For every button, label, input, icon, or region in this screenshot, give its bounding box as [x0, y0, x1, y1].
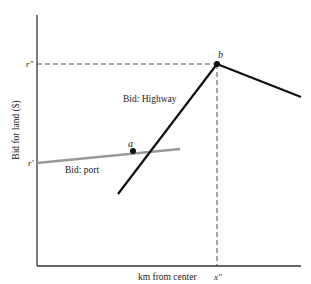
point-b-label: b [218, 49, 223, 60]
x-double-prime-tick-label: x″ [213, 272, 222, 282]
point-a-label: a [128, 138, 133, 149]
r-prime-tick-label: r′ [28, 158, 35, 168]
y-axis-label: Bid for land ($) [11, 100, 22, 159]
highway-bid-decline-line [217, 64, 301, 97]
bid-rent-diagram: a b Bid: Highway Bid: port r″ r′ x″ km f… [0, 0, 311, 284]
r-double-prime-tick-label: r″ [26, 59, 34, 69]
port-curve-label: Bid: port [65, 165, 99, 175]
highway-curve-label: Bid: Highway [123, 94, 177, 104]
x-axis-label: km from center [138, 272, 197, 282]
point-b [214, 61, 220, 67]
highway-bid-line [118, 64, 217, 194]
port-bid-line [37, 149, 180, 163]
